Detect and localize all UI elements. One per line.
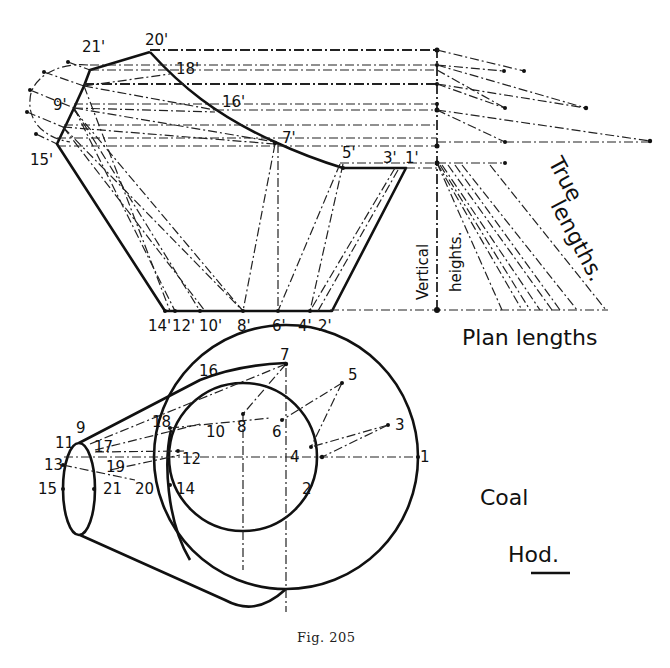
plan-lengths-label: Plan lengths [462,325,597,350]
label-1-prime: 1' [405,149,419,167]
true-length-diagram: Vertical heights. True lengths. Plan len… [330,48,652,351]
label-11: 11 [55,434,74,452]
plan-view: 1 2 3 4 5 6 7 8 9 10 11 12 13 14 15 16 1… [38,325,430,612]
label-20: 20 [135,480,154,498]
title-hod: Hod. [508,542,559,567]
label-2: 2 [302,480,312,498]
label-12: 12 [182,450,201,468]
label-15: 15 [38,480,57,498]
label-10: 10 [206,423,225,441]
label-9: 9 [76,419,86,437]
label-14-prime: 14' [148,317,171,335]
label-8: 8 [237,418,247,436]
label-4: 4 [290,448,300,466]
label-16-prime: 16' [222,93,245,111]
heights-label: heights. [447,232,465,292]
label-9-prime: 9' [53,96,67,114]
label-10-prime: 10' [199,317,222,335]
label-5-prime: 5' [342,144,356,162]
label-19: 19 [106,458,125,476]
label-5: 5 [348,366,358,384]
label-6: 6 [272,423,282,441]
label-20-prime: 20' [145,31,168,49]
label-16: 16 [199,362,218,380]
vertical-heights-label: Vertical [414,244,432,300]
label-12-prime: 12' [172,317,195,335]
elevation-view: 21' 20' 18' 16' 9' 15' 7' 5' 3' 1' 14' 1… [25,31,437,335]
title-coal: Coal [480,485,528,510]
label-18-prime: 18' [176,60,199,78]
label-7-prime: 7' [282,129,296,147]
label-1: 1 [420,448,430,466]
label-7: 7 [280,346,290,364]
lengths-label: lengths. [546,196,610,286]
label-18: 18 [152,413,171,431]
coal-hod-development-drawing: 21' 20' 18' 16' 9' 15' 7' 5' 3' 1' 14' 1… [0,0,670,668]
label-14: 14 [176,480,195,498]
label-21: 21 [103,480,122,498]
label-21-prime: 21' [82,38,105,56]
label-3-prime: 3' [383,149,397,167]
figure-caption: Fig. 205 [297,630,356,645]
label-3: 3 [395,416,405,434]
label-13: 13 [44,456,63,474]
label-17: 17 [94,438,113,456]
label-15-prime: 15' [30,151,53,169]
